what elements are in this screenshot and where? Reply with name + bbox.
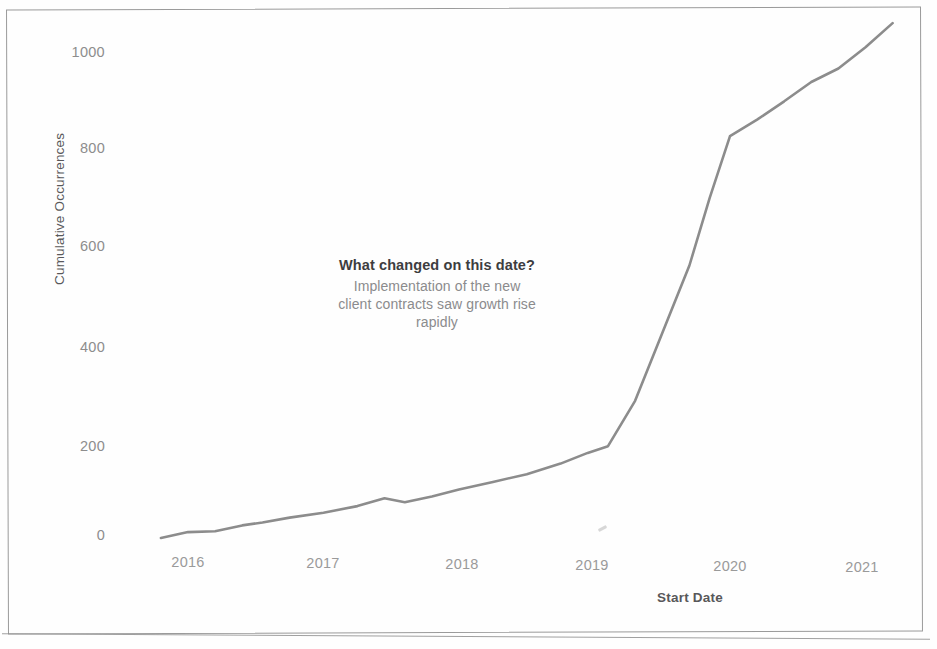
annotation-body: Implementation of the new client contrac…	[337, 277, 537, 332]
x-tick-label-2018: 2018	[427, 556, 497, 572]
x-axis-title: Start Date	[590, 590, 790, 605]
x-tick-label-2019: 2019	[557, 557, 627, 573]
chart-annotation: What changed on this date? Implementatio…	[337, 256, 537, 331]
annotation-heading: What changed on this date?	[337, 256, 537, 275]
x-tick-label-2017: 2017	[288, 555, 358, 571]
x-tick-label-2016: 2016	[153, 554, 223, 570]
x-tick-label-2021: 2021	[827, 559, 897, 575]
plot-area: 1000 800 600 400 200 0 Cumulative Occurr…	[0, 0, 937, 649]
x-tick-label-2020: 2020	[695, 558, 765, 574]
chart-page: 1000 800 600 400 200 0 Cumulative Occurr…	[0, 0, 937, 649]
